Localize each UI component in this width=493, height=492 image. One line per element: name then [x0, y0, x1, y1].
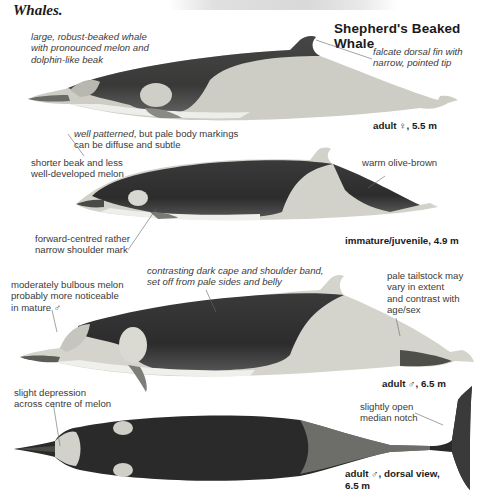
annotation-line: slightly open [360, 401, 418, 412]
annotation-well-patterned: well patterned, but pale body markings c… [74, 128, 238, 151]
annotation-line: probably more noticeable [11, 290, 124, 301]
annotation-median-notch: slightly open median notch [360, 401, 418, 424]
annotation-line: well patterned, but pale body markings [74, 128, 238, 139]
caption-adult-female: adult ♀, 5.5 m [373, 120, 437, 132]
caption-immature-juvenile: immature/juvenile, 4.9 m [345, 235, 459, 247]
annotation-emphasis: well patterned [74, 128, 134, 139]
annotation-line: in mature ♂ [11, 302, 124, 313]
annotation-line: set off from pale sides and belly [147, 276, 324, 287]
annotation-melon-depression: slight depression across centre of melon [14, 387, 111, 410]
annotation-line: narrow shoulder mark [35, 244, 130, 255]
annotation-robust-beak: large, robust-beaked whale with pronounc… [31, 31, 149, 65]
annotation-bulbous-melon: moderately bulbous melon probably more n… [11, 279, 124, 313]
annotation-line: vary in extent [387, 281, 463, 292]
annotation-line: falcate dorsal fin with [373, 46, 463, 57]
annotation-line: and contrast with [387, 293, 463, 304]
caption-line: 6.5 m [345, 480, 440, 492]
annotation-line: age/sex [387, 304, 463, 315]
annotation-line: shorter beak and less [31, 157, 124, 168]
caption-adult-male-dorsal: adult ♂, dorsal view, 6.5 m [345, 468, 440, 492]
caption-line: adult ♂, dorsal view, [345, 468, 440, 480]
annotation-dark-cape: contrasting dark cape and shoulder band,… [147, 265, 324, 288]
annotation-line: median notch [360, 412, 418, 423]
annotation-line: moderately bulbous melon [11, 279, 124, 290]
caption-adult-male: adult ♂, 6.5 m [382, 378, 446, 390]
annotation-line: well-developed melon [31, 168, 124, 179]
annotation-line: narrow, pointed tip [373, 57, 463, 68]
annotation-line: slight depression [14, 387, 111, 398]
annotation-shorter-beak: shorter beak and less well-developed mel… [31, 157, 124, 180]
annotation-line: with pronounced melon and [31, 42, 149, 53]
annotation-pale-tailstock: pale tailstock may vary in extent and co… [387, 270, 463, 316]
annotation-line: pale tailstock may [387, 270, 463, 281]
annotation-line: across centre of melon [14, 398, 111, 409]
annotation-line: dolphin-like beak [31, 54, 149, 65]
annotation-rest: , but pale body markings [134, 128, 239, 139]
annotation-line: contrasting dark cape and shoulder band, [147, 265, 324, 276]
annotation-line: can be diffuse and subtle [74, 139, 238, 150]
annotation-olive-brown: warm olive-brown [362, 157, 437, 168]
annotation-dorsal-fin: falcate dorsal fin with narrow, pointed … [373, 46, 463, 69]
annotation-line: large, robust-beaked whale [31, 31, 149, 42]
annotation-line: forward-centred rather [35, 233, 130, 244]
annotation-shoulder-mark: forward-centred rather narrow shoulder m… [35, 233, 130, 256]
